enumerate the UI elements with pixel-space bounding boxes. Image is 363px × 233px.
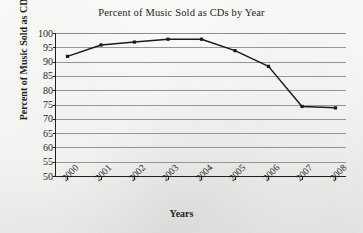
plot-area <box>0 0 363 233</box>
data-line <box>68 39 336 108</box>
data-point-2006 <box>267 65 270 68</box>
data-point-2005 <box>233 49 236 52</box>
data-point-2007 <box>300 105 303 108</box>
data-point-2004 <box>200 38 203 41</box>
data-point-2003 <box>166 38 169 41</box>
data-point-2002 <box>133 40 136 43</box>
data-point-2000 <box>66 55 69 58</box>
line-chart: Percent of Music Sold as CDs by Year Per… <box>0 0 363 233</box>
data-point-2001 <box>99 43 102 46</box>
data-point-2008 <box>334 106 337 109</box>
